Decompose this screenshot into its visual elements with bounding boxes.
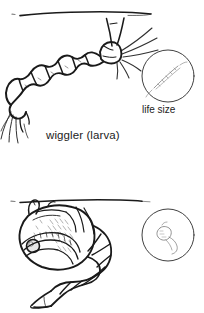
pupa-abdomen [51,226,111,306]
illustration-page: wiggler (larva) life size [0,0,204,313]
larva-body [6,52,103,105]
panel-pupa: tumbler (pupa) life size [0,160,204,313]
pupa-illustration [0,160,204,313]
pupa-paddles [31,291,51,308]
larva-caption: wiggler (larva) [46,129,120,141]
larva-mouth-brushes [117,28,158,79]
larva-lifesize-label: life size [142,104,175,115]
pupa-lifesize-inset [142,209,194,261]
larva-head [100,42,121,63]
pupa-wing-case [33,207,94,234]
panel-larva: wiggler (larva) life size [0,0,204,160]
larva-lifesize-inset [142,50,194,102]
waterline-larva [12,12,151,16]
